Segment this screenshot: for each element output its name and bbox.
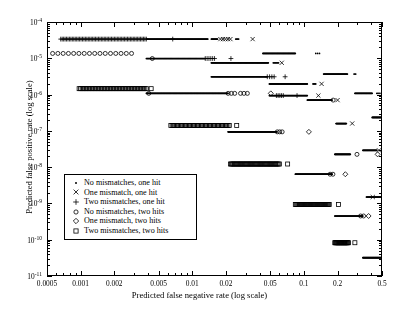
x-tick-mark [181, 273, 182, 276]
y-tick-mark [47, 222, 50, 223]
x-tick-mark [299, 273, 300, 276]
x-tick-label: 0.02 [219, 279, 232, 288]
y-tick-mark [47, 241, 50, 242]
x-tick-mark [76, 22, 77, 25]
x-tick-label: 0.1 [299, 279, 308, 288]
y-tick-mark [47, 84, 50, 85]
y-tick-mark [47, 134, 50, 135]
y-tick-mark [379, 145, 382, 146]
y-tick-mark [379, 66, 382, 67]
y-tick-mark [47, 203, 52, 204]
x-tick-mark [287, 273, 288, 276]
y-tick-mark [47, 218, 50, 219]
x-tick-mark [114, 271, 115, 276]
y-tick-mark [377, 22, 382, 23]
y-tick-mark [47, 254, 50, 255]
x-tick-mark [187, 22, 188, 25]
x-tick-mark [192, 271, 193, 276]
y-tick-mark [379, 248, 382, 249]
y-tick-mark [47, 139, 50, 140]
x-tick-mark [168, 273, 169, 276]
y-tick-mark [379, 103, 382, 104]
y-tick-mark [379, 175, 382, 176]
y-tick-mark [47, 169, 50, 170]
x-tick-mark [63, 273, 64, 276]
x-tick-mark [293, 273, 294, 276]
legend-item: No mismatches, two hits [67, 207, 194, 217]
x-tick-mark [293, 22, 294, 25]
y-tick-mark [379, 218, 382, 219]
legend-item-label: Two mismatches, one hit [84, 197, 165, 207]
x-tick-label: 0.001 [72, 279, 89, 288]
y-tick-mark [379, 169, 382, 170]
y-tick-mark [379, 47, 382, 48]
y-tick-mark [47, 276, 52, 277]
x-tick-mark [175, 273, 176, 276]
y-tick-mark [379, 114, 382, 115]
x-tick-mark [260, 273, 261, 276]
x-tick-mark [148, 22, 149, 25]
y-tick-mark [47, 245, 50, 246]
y-tick-mark [379, 64, 382, 65]
legend-item: Two mismatches, one hit [67, 197, 194, 207]
x-tick-mark [134, 22, 135, 25]
y-tick-mark [379, 171, 382, 172]
legend-item-label: One mismatch, one hit [84, 188, 157, 198]
y-tick-mark [47, 259, 50, 260]
x-tick-mark [81, 22, 82, 27]
y-tick-mark [47, 96, 50, 97]
x-tick-mark [357, 22, 358, 25]
y-tick-mark [47, 28, 50, 29]
y-tick-mark [379, 241, 382, 242]
y-tick-mark [379, 142, 382, 143]
y-tick-mark [379, 254, 382, 255]
y-tick-mark [47, 114, 50, 115]
y-tick-mark [47, 131, 52, 132]
x-tick-mark [382, 22, 383, 27]
legend-item: No mismatches, one hit [67, 178, 194, 188]
x-tick-mark [279, 22, 280, 25]
y-tick-mark [47, 30, 50, 31]
x-tick-mark [304, 22, 305, 27]
y-tick-mark [47, 64, 50, 65]
y-tick-mark [379, 245, 382, 246]
y-tick-mark [379, 84, 382, 85]
y-tick-mark [377, 276, 382, 277]
y-tick-mark [47, 120, 50, 121]
y-tick-mark [47, 167, 52, 168]
y-tick-mark [47, 240, 52, 241]
y-tick-mark [47, 173, 50, 174]
y-tick-mark [379, 36, 382, 37]
y-tick-mark [379, 98, 382, 99]
y-tick-mark [47, 175, 50, 176]
y-tick-mark [379, 222, 382, 223]
y-tick-mark [47, 69, 50, 70]
legend-item-label: No mismatches, two hits [84, 207, 164, 217]
y-tick-mark [379, 182, 382, 183]
x-tick-mark [148, 273, 149, 276]
y-tick-mark [47, 145, 50, 146]
x-tick-mark [338, 271, 339, 276]
y-tick-mark [47, 156, 50, 157]
y-tick-mark [47, 133, 50, 134]
y-tick-mark [47, 150, 50, 151]
y-tick-mark [379, 173, 382, 174]
x-axis-title: Predicted false negative rate (log scale… [0, 290, 399, 300]
y-tick-mark [47, 22, 52, 23]
y-tick-label: 10-11 [8, 271, 42, 281]
y-tick-mark [377, 167, 382, 168]
y-tick-mark [379, 24, 382, 25]
x-tick-mark [382, 271, 383, 276]
chart-figure: 0.00050.0010.0020.0050.010.020.050.10.20… [0, 0, 399, 315]
x-tick-mark [287, 22, 288, 25]
x-tick-mark [63, 22, 64, 25]
y-tick-mark [377, 58, 382, 59]
y-tick-mark [47, 211, 50, 212]
x-tick-mark [81, 271, 82, 276]
x-tick-mark [175, 22, 176, 25]
y-tick-mark [379, 105, 382, 106]
legend-item-label: Two mismatches, two hits [84, 226, 168, 236]
x-tick-mark [187, 273, 188, 276]
y-tick-mark [47, 66, 50, 67]
y-tick-mark [379, 69, 382, 70]
